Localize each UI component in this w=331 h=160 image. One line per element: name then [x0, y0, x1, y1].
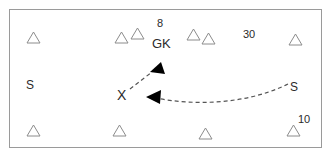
triangle-top-left-icon: [26, 31, 41, 44]
triangle-top-mid-left-1-icon: [114, 31, 129, 44]
triangle-bottom-left-icon: [26, 124, 41, 137]
triangle-bottom-mid-icon: [198, 127, 213, 140]
label-8: 8: [157, 17, 163, 29]
field-boundary: [9, 9, 322, 148]
triangle-top-right-icon: [288, 33, 303, 46]
triangle-bottom-mid-left-icon: [112, 124, 127, 137]
label-x: X: [117, 87, 126, 103]
triangle-top-mid-left-2-icon: [130, 27, 145, 40]
label-s-left: S: [26, 78, 34, 92]
label-gk: GK: [152, 36, 171, 51]
play-diagram: 8GK3010SSX: [0, 0, 331, 160]
triangle-top-mid-right-1-icon: [186, 28, 201, 41]
label-s-right: S: [290, 80, 298, 94]
label-30: 30: [243, 28, 255, 40]
label-10: 10: [298, 113, 310, 125]
triangle-bottom-right-icon: [286, 124, 301, 137]
triangle-top-mid-right-2-icon: [201, 32, 216, 45]
